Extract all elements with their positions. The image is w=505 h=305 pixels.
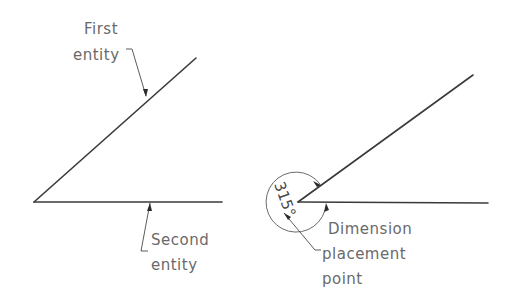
dimension-value-text: 315° (270, 179, 299, 219)
placement-label-line2: placement (322, 245, 406, 263)
first-entity-line-right (298, 75, 473, 202)
dimension-arc-arrow-bottom-icon (324, 203, 329, 212)
first-entity-line (34, 58, 196, 202)
placement-label-line3: point (322, 270, 363, 288)
second-entity-label-line2: entity (151, 256, 198, 274)
second-entity-line-right (298, 202, 488, 203)
placement-label-line1: Dimension (328, 220, 412, 238)
first-entity-label-line2: entity (73, 46, 120, 64)
second-entity-label-line1: Second (151, 231, 209, 249)
right-figure: 315° Dimension placement point (266, 75, 488, 288)
left-figure: First entity Second entity (34, 20, 222, 274)
first-entity-label-line1: First (84, 20, 118, 38)
angular-dimension-diagram: First entity Second entity 315° Dimensio… (0, 0, 505, 305)
first-entity-leader (126, 49, 146, 96)
